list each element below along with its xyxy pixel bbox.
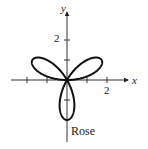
y-axis-label: y <box>60 2 66 14</box>
x-axis-label: x <box>131 74 137 86</box>
y-tick-label: 2 <box>54 32 60 44</box>
rose-graph: x y 2 2 Rose <box>0 0 148 149</box>
x-tick-label: 2 <box>104 84 110 96</box>
caption: Rose <box>71 124 95 138</box>
